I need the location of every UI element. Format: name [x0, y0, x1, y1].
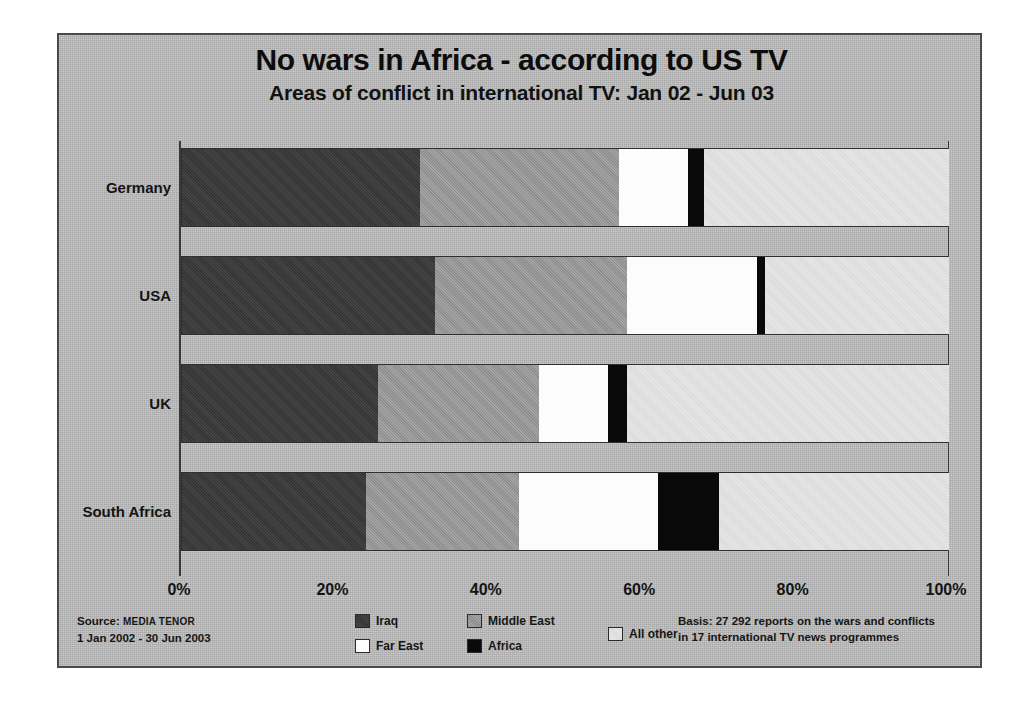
source-line-2: 1 Jan 2002 - 30 Jun 2003: [77, 630, 211, 646]
bar-segment-uk-far-east: [539, 365, 608, 442]
bar-segment-germany-middle-east: [420, 149, 619, 226]
legend-label-iraq: Iraq: [376, 614, 398, 628]
bar-segment-uk-middle-east: [378, 365, 539, 442]
x-tick-label-40: 40%: [470, 581, 502, 599]
legend-label-middle-east: Middle East: [488, 614, 555, 628]
source-line-1: Source: MEDIA TENOR: [77, 613, 211, 630]
plot-area: [179, 141, 949, 576]
bar-row-germany: [181, 148, 948, 227]
basis-line-1: Basis: 27 292 reports on the wars and co…: [678, 613, 935, 629]
x-axis: 0%20%40%60%80%100%: [179, 581, 948, 603]
bar-segment-usa-all-other: [765, 257, 949, 334]
bar-segment-germany-iraq: [182, 149, 420, 226]
source-text: Source: MEDIA TENOR 1 Jan 2002 - 30 Jun …: [77, 613, 211, 646]
basis-line-2: in 17 international TV news programmes: [678, 629, 935, 645]
footer-block: Source: MEDIA TENOR 1 Jan 2002 - 30 Jun …: [65, 607, 978, 663]
bar-segment-usa-africa: [757, 257, 765, 334]
x-tick-label-20: 20%: [316, 581, 348, 599]
chart-frame: No wars in Africa - according to US TV A…: [57, 33, 982, 668]
legend-swatch-far-east: [355, 639, 370, 653]
source-name: MEDIA TENOR: [123, 616, 195, 627]
bar-segment-south-africa-africa: [658, 473, 719, 550]
bar-segment-uk-africa: [608, 365, 627, 442]
legend-swatch-iraq: [355, 614, 370, 628]
legend-item-iraq[interactable]: Iraq: [355, 614, 398, 628]
bar-row-uk: [181, 364, 948, 443]
x-tick-label-0: 0%: [167, 581, 190, 599]
bar-segment-usa-middle-east: [435, 257, 627, 334]
source-prefix: Source:: [77, 615, 123, 627]
bar-segment-south-africa-far-east: [519, 473, 657, 550]
bar-segment-usa-far-east: [627, 257, 757, 334]
category-label-south-africa: South Africa: [59, 503, 171, 520]
bar-segment-south-africa-iraq: [182, 473, 366, 550]
legend-label-all-other: All other: [629, 627, 678, 641]
x-tick-label-60: 60%: [623, 581, 655, 599]
bar-segment-south-africa-all-other: [719, 473, 949, 550]
bar-segment-germany-far-east: [619, 149, 688, 226]
chart-title: No wars in Africa - according to US TV: [59, 41, 984, 79]
legend-item-far-east[interactable]: Far East: [355, 639, 423, 653]
legend-swatch-all-other: [608, 627, 623, 641]
x-tick-label-80: 80%: [777, 581, 809, 599]
bar-row-usa: [181, 256, 948, 335]
bar-segment-uk-iraq: [182, 365, 378, 442]
legend-label-far-east: Far East: [376, 639, 423, 653]
legend-swatch-middle-east: [467, 614, 482, 628]
legend-item-all-other[interactable]: All other: [608, 627, 678, 641]
chart-subtitle: Areas of conflict in international TV: J…: [59, 79, 984, 106]
title-block: No wars in Africa - according to US TV A…: [59, 41, 984, 106]
bar-segment-uk-all-other: [627, 365, 949, 442]
bar-row-south-africa: [181, 472, 948, 551]
legend-item-middle-east[interactable]: Middle East: [467, 614, 555, 628]
bar-segment-germany-africa: [688, 149, 703, 226]
basis-text: Basis: 27 292 reports on the wars and co…: [678, 613, 935, 645]
legend-label-africa: Africa: [488, 639, 522, 653]
x-tick-label-100: 100%: [926, 581, 967, 599]
legend-swatch-africa: [467, 639, 482, 653]
bar-segment-south-africa-middle-east: [366, 473, 519, 550]
bar-segment-germany-all-other: [704, 149, 949, 226]
category-label-germany: Germany: [59, 179, 171, 196]
bar-segment-usa-iraq: [182, 257, 435, 334]
category-label-usa: USA: [59, 287, 171, 304]
category-label-uk: UK: [59, 395, 171, 412]
chart-page: No wars in Africa - according to US TV A…: [0, 0, 1033, 708]
legend-item-africa[interactable]: Africa: [467, 639, 522, 653]
chart-legend: Iraq Middle East Far East Africa All oth…: [343, 609, 673, 661]
